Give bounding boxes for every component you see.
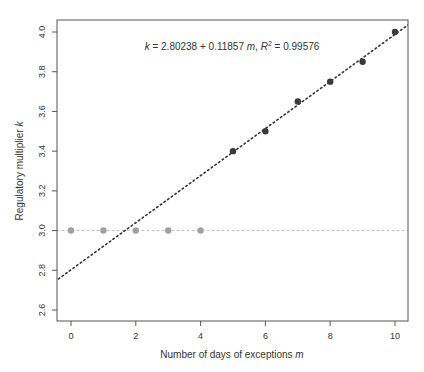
y-axis: 2.62.83.03.23.43.63.84.0 [37,26,57,317]
data-point [262,128,268,134]
x-tick-label: 4 [198,331,203,341]
x-axis-label: Number of days of exceptions m [160,349,303,360]
data-point [133,227,139,233]
data-point [100,227,106,233]
data-point [165,227,171,233]
data-point [295,98,301,104]
data-point [359,59,365,65]
data-point [327,78,333,84]
x-tick-label: 8 [328,331,333,341]
x-tick-label: 10 [390,331,400,341]
data-point [392,29,398,35]
data-point [197,227,203,233]
x-tick-label: 6 [263,331,268,341]
y-tick-label: 3.0 [37,224,47,237]
y-tick-label: 3.8 [37,65,47,78]
y-tick-label: 3.4 [37,145,47,158]
y-axis-label: Regulatory multiplier k [14,121,25,221]
data-point [230,148,236,154]
y-tick-label: 3.2 [37,185,47,198]
y-tick-label: 4.0 [37,26,47,39]
regression-equation: k = 2.80238 + 0.11857 m, R2 = 0.99576 [145,40,320,52]
data-point [68,227,74,233]
plot-area [55,20,415,281]
x-axis: 0246810 [68,321,400,341]
y-tick-label: 2.8 [37,264,47,277]
regression-chart: 2.62.83.03.23.43.63.84.0 0246810 k = 2.8… [0,0,424,372]
x-tick-label: 0 [68,331,73,341]
x-tick-label: 2 [133,331,138,341]
y-tick-label: 2.6 [37,304,47,317]
y-tick-label: 3.6 [37,105,47,118]
plot-frame [57,20,408,321]
